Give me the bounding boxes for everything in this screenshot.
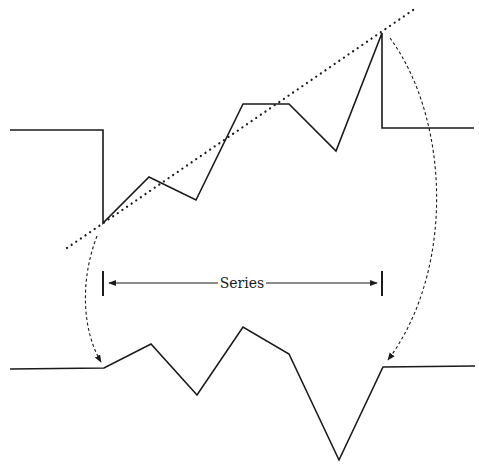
detrending-diagram: Series bbox=[0, 0, 479, 467]
right-mapping-arrow bbox=[388, 38, 437, 360]
trend-line-dotted bbox=[67, 8, 416, 248]
left-mapping-arrow bbox=[85, 236, 101, 362]
series-label: Series bbox=[220, 275, 265, 291]
diagram-canvas: Series bbox=[0, 0, 479, 467]
series-bracket: Series bbox=[103, 271, 382, 296]
bottom-series-line bbox=[10, 327, 475, 460]
